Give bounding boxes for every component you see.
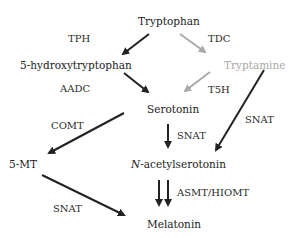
arrow-5htp-to-serotonin — [124, 73, 148, 92]
node-tryptophan: Tryptophan — [138, 15, 200, 28]
arrow-serotonin-to-5mt — [49, 113, 124, 153]
arrow-tryptamine-to-nacetylserotonin — [216, 70, 264, 150]
enzyme-tdc: TDC — [208, 33, 230, 45]
enzyme-snat-serotonin: SNAT — [177, 130, 206, 142]
node-melatonin: Melatonin — [147, 218, 201, 231]
enzyme-snat-5mt: SNAT — [53, 203, 82, 215]
arrow-tryptamine-to-serotonin — [185, 72, 210, 91]
enzyme-tph: TPH — [68, 33, 90, 45]
enzyme-asmt-hiomt: ASMT/HIOMT — [177, 187, 249, 199]
enzyme-aadc: AADC — [60, 83, 90, 95]
node-serotonin: Serotonin — [147, 103, 199, 116]
arrow-tryptophan-to-5htp — [123, 34, 149, 54]
enzyme-snat-tryptamine: SNAT — [245, 114, 274, 126]
melatonin-biosynthesis-diagram: Tryptophan 5-hydroxytryptophan Tryptamin… — [0, 0, 290, 238]
node-5-mt: 5-MT — [9, 158, 37, 171]
enzyme-comt: COMT — [51, 120, 84, 132]
n-prefix: N — [131, 158, 140, 170]
node-n-acetylserotonin: N-acetylserotonin — [131, 158, 226, 171]
node-tryptamine: Tryptamine — [224, 59, 285, 72]
node-5-hydroxytryptophan: 5-hydroxytryptophan — [20, 59, 132, 72]
arrow-tryptophan-to-tryptamine — [180, 34, 205, 52]
n-acetylserotonin-rest: -acetylserotonin — [140, 158, 226, 170]
enzyme-t5h: T5H — [208, 84, 230, 96]
